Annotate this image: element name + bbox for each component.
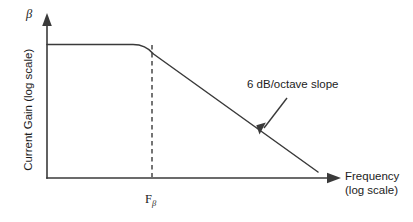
y-axis-label: Current Gain (log scale) bbox=[22, 34, 36, 186]
x-axis-label-line-1: Frequency bbox=[345, 170, 399, 184]
cutoff-frequency-subscript: β bbox=[152, 198, 156, 208]
figure-container: β Current Gain (log scale) Frequency (lo… bbox=[0, 0, 413, 222]
x-axis-label-line-2: (log scale) bbox=[345, 184, 399, 198]
beta-axis-symbol: β bbox=[26, 7, 32, 22]
x-axis-label: Frequency (log scale) bbox=[345, 170, 399, 197]
cutoff-frequency-base: F bbox=[145, 192, 152, 206]
y-axis-arrow-icon bbox=[42, 13, 52, 26]
slope-annotation-pointer-line bbox=[264, 98, 287, 128]
slope-annotation-text: 6 dB/octave slope bbox=[247, 78, 338, 92]
x-axis-arrow-icon bbox=[327, 173, 341, 183]
gain-response-curve bbox=[47, 45, 318, 172]
cutoff-frequency-label: Fβ bbox=[145, 192, 156, 208]
